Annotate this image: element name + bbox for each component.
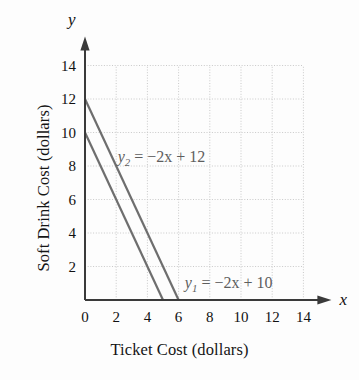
equation-y1-body: = −2x + 10	[197, 274, 272, 291]
y-tick-label-2: 2	[69, 259, 77, 274]
equation-y2-variable: y	[118, 148, 125, 165]
y-axis-arrowhead	[80, 37, 89, 51]
equation-y1-variable: y	[185, 274, 192, 291]
x-tick-label-6: 6	[175, 310, 183, 325]
gridlines	[85, 66, 303, 301]
x-tick-label-12: 12	[265, 310, 280, 325]
y-tick-label-8: 8	[69, 159, 77, 174]
x-tick-label-0: 0	[81, 310, 89, 325]
graph-figure: Soft Drink Cost (dollars) 24681012140246…	[0, 0, 359, 380]
x-tick-label-8: 8	[206, 310, 214, 325]
y-tick-label-14: 14	[61, 58, 76, 73]
equation-label-y1: y1 = −2x + 10	[185, 275, 273, 294]
x-axis-arrowhead	[317, 295, 331, 304]
y-tick-label-10: 10	[61, 125, 76, 140]
equation-label-y2: y2 = −2x + 12	[118, 149, 206, 168]
x-tick-label-2: 2	[112, 310, 120, 325]
x-tick-label-4: 4	[144, 310, 152, 325]
x-tick-label-14: 14	[296, 310, 311, 325]
equation-y2-body: = −2x + 12	[130, 148, 205, 165]
y-tick-label-6: 6	[69, 192, 77, 207]
x-tick-label-10: 10	[234, 310, 249, 325]
x-axis-title: Ticket Cost (dollars)	[0, 340, 359, 360]
y-tick-label-4: 4	[69, 226, 77, 241]
y-tick-label-12: 12	[61, 92, 76, 107]
y-axis-variable-letter: y	[68, 11, 76, 28]
x-axis-variable-letter: x	[339, 291, 347, 308]
